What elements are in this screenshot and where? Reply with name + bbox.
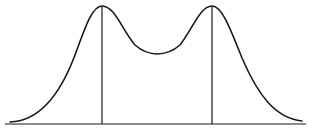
distribution-curve bbox=[10, 6, 302, 122]
bimodal-curve-diagram bbox=[0, 0, 312, 129]
